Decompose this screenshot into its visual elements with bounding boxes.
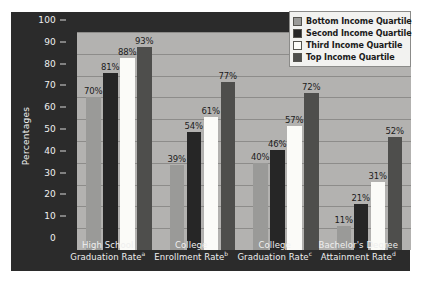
y-axis-title: Percentages	[21, 106, 31, 165]
legend-swatch-icon	[293, 17, 302, 26]
y-tick-mark	[60, 41, 66, 42]
y-tick-mark	[60, 129, 66, 130]
bar-value-label: 31%	[368, 171, 387, 181]
x-axis-label: CollegeEnrollment Rateb	[150, 240, 234, 263]
bar: 88%	[120, 58, 135, 250]
footnote-marker: a	[141, 250, 145, 257]
x-axis-label: High SchoolGraduation Ratea	[66, 240, 150, 263]
y-axis: Percentages 1009080706050403020100	[11, 12, 66, 259]
y-tick-label: 0	[50, 233, 56, 243]
bar: 77%	[221, 82, 236, 250]
legend-item-label: Top Income Quartile	[306, 53, 395, 62]
bar-value-label: 39%	[167, 154, 186, 164]
y-tick-mark	[60, 85, 66, 86]
y-tick-mark	[60, 107, 66, 108]
legend-item-label: Bottom Income Quartile	[306, 17, 412, 26]
legend-item-label: Second Income Quartile	[306, 29, 411, 38]
x-axis-label: Bachelor's DegreeAttainment Rated	[317, 240, 401, 263]
bar: 40%	[253, 163, 268, 250]
y-tick-mark	[60, 216, 66, 217]
legend-item: Bottom Income Quartile	[293, 15, 406, 27]
x-axis-label-line: Graduation Ratea	[66, 252, 150, 264]
footnote-marker: d	[392, 250, 396, 257]
x-axis-label-line: College	[233, 240, 317, 252]
legend-item: Third Income Quartile	[293, 39, 406, 51]
legend-swatch-icon	[293, 29, 302, 38]
bar: 54%	[187, 132, 202, 250]
legend-swatch-icon	[293, 41, 302, 50]
bar-value-label: 54%	[184, 121, 203, 131]
x-axis-label: CollegeGraduation Ratec	[233, 240, 317, 263]
bar: 57%	[287, 126, 302, 250]
bar-value-label: 40%	[251, 152, 270, 162]
y-tick-label: 80	[44, 59, 56, 69]
y-tick-label: 10	[44, 211, 56, 221]
bar-value-label: 93%	[135, 36, 154, 46]
x-axis-label-line: College	[150, 240, 234, 252]
x-axis-labels: High SchoolGraduation RateaCollegeEnroll…	[66, 240, 400, 271]
bar-value-label: 46%	[268, 139, 287, 149]
bar-value-label: 61%	[201, 106, 220, 116]
bar: 61%	[204, 117, 219, 250]
bar: 52%	[388, 137, 403, 250]
legend-swatch-icon	[293, 53, 302, 62]
bar: 70%	[86, 97, 101, 250]
bar: 72%	[304, 93, 319, 250]
legend: Bottom Income QuartileSecond Income Quar…	[289, 11, 411, 67]
legend-item: Second Income Quartile	[293, 27, 406, 39]
bar-value-label: 11%	[334, 215, 353, 225]
legend-item: Top Income Quartile	[293, 51, 406, 63]
y-tick-label: 100	[38, 15, 56, 25]
x-axis-label-line: Enrollment Rateb	[150, 252, 234, 264]
bar-value-label: 52%	[385, 126, 404, 136]
y-tick-label: 90	[44, 37, 56, 47]
bar-value-label: 72%	[302, 82, 321, 92]
x-axis-label-line: Graduation Ratec	[233, 252, 317, 264]
y-tick-mark	[60, 63, 66, 64]
bar-chart-figure: 70%81%88%93%39%54%61%77%40%46%57%72%11%2…	[0, 0, 421, 282]
bar-value-label: 57%	[285, 115, 304, 125]
footnote-marker: c	[309, 250, 312, 257]
y-tick-mark	[60, 150, 66, 151]
y-tick-mark	[60, 20, 66, 21]
y-tick-mark	[60, 172, 66, 173]
bar-value-label: 88%	[118, 47, 137, 57]
x-axis-label-line: High School	[66, 240, 150, 252]
bar-value-label: 81%	[101, 62, 120, 72]
x-axis-label-line: Attainment Rated	[317, 252, 401, 264]
bar-value-label: 21%	[351, 193, 370, 203]
bar: 93%	[137, 47, 152, 250]
y-tick-label: 70	[44, 80, 56, 90]
bar-value-label: 70%	[84, 86, 103, 96]
bar-value-label: 77%	[218, 71, 237, 81]
footnote-marker: b	[224, 250, 228, 257]
y-tick-label: 40	[44, 146, 56, 156]
x-axis-label-line: Bachelor's Degree	[317, 240, 401, 252]
y-tick-mark	[60, 194, 66, 195]
legend-item-label: Third Income Quartile	[306, 41, 402, 50]
bar: 39%	[170, 165, 185, 250]
bar: 81%	[103, 73, 118, 250]
y-tick-label: 30	[44, 168, 56, 178]
y-tick-label: 60	[44, 102, 56, 112]
y-tick-label: 20	[44, 189, 56, 199]
bar: 46%	[270, 150, 285, 250]
y-tick-label: 50	[44, 124, 56, 134]
